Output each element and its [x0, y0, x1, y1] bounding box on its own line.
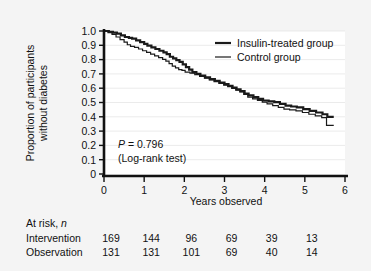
risk-cell: 101 [183, 246, 201, 258]
risk-cell: 14 [306, 246, 318, 258]
risk-table-title-italic: n [61, 217, 67, 229]
risk-cell: 144 [142, 232, 160, 244]
logrank-test-label: (Log-rank test) [118, 152, 186, 164]
y-tick-label: 0.2 [81, 139, 96, 151]
x-tick-label: 2 [181, 184, 187, 196]
y-tick-label: 1.0 [81, 25, 96, 37]
y-tick-label: 0.1 [81, 154, 96, 166]
x-tick-label: 5 [302, 184, 308, 196]
x-tick-label: 6 [342, 184, 348, 196]
x-tick-label: 1 [141, 184, 147, 196]
pvalue-value: = 0.796 [125, 138, 163, 150]
x-tick-label: 4 [262, 184, 268, 196]
y-tick-label: 0.9 [81, 39, 96, 51]
y-tick-label: 0.3 [81, 125, 96, 137]
pvalue-symbol: P [118, 138, 125, 150]
y-tick-label: 0 [90, 168, 96, 180]
risk-cell: 131 [102, 246, 120, 258]
risk-row-label: Observation [26, 246, 83, 258]
risk-cell: 13 [306, 232, 318, 244]
risk-row-label: Intervention [26, 232, 81, 244]
risk-cell: 40 [266, 246, 278, 258]
risk-cell: 39 [266, 232, 278, 244]
survival-chart: 00.10.20.30.40.50.60.70.80.91.0 0123456 … [0, 0, 371, 271]
y-tick-label: 0.6 [81, 82, 96, 94]
pvalue-text: P = 0.796 [118, 138, 163, 150]
y-tick-label: 0.4 [81, 111, 96, 123]
risk-cell: 169 [102, 232, 120, 244]
legend-label: Insulin-treated group [237, 37, 333, 49]
y-tick-label: 0.8 [81, 53, 96, 65]
risk-cell: 69 [226, 246, 238, 258]
y-axis-title-line2: without diabetes [37, 65, 49, 142]
y-axis-title-line1: Proportion of participants [24, 45, 36, 162]
y-tick-label: 0.5 [81, 96, 96, 108]
x-axis-title: Years observed [190, 195, 263, 207]
risk-cell: 131 [142, 246, 160, 258]
figure-container: 00.10.20.30.40.50.60.70.80.91.0 0123456 … [0, 0, 371, 271]
risk-table-title-main: At risk, [26, 217, 61, 229]
risk-cell: 96 [185, 232, 197, 244]
legend-label: Control group [237, 51, 301, 63]
y-tick-label: 0.7 [81, 68, 96, 80]
risk-cell: 69 [226, 232, 238, 244]
x-tick-label: 0 [101, 184, 107, 196]
risk-table-title: At risk, n [26, 217, 67, 229]
